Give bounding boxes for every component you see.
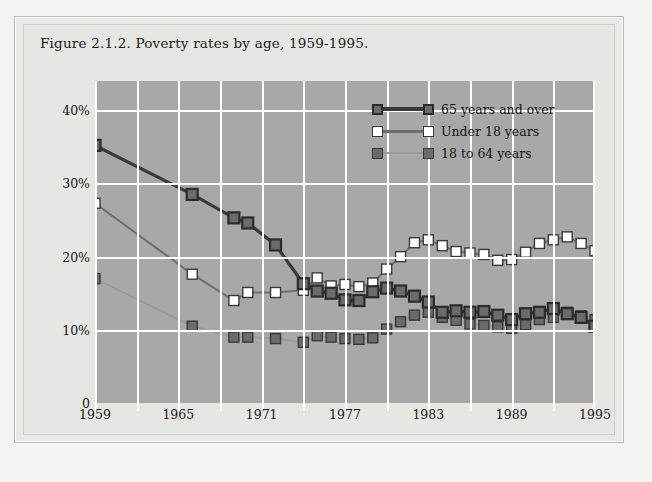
data-point-marker [409,291,420,302]
data-point-marker [354,282,364,292]
data-point-marker [243,287,253,297]
legend-item: Under 18 years [372,120,572,142]
figure-title: Figure 2.1.2. Poverty rates by age, 1959… [40,35,369,51]
data-point-marker [270,239,281,250]
gridline-horizontal [95,257,595,259]
data-point-marker [492,310,503,321]
data-point-marker [353,295,364,306]
gridline-vertical [178,81,180,403]
data-point-marker [229,296,239,306]
screenshot-page: Figure 2.1.2. Poverty rates by age, 1959… [0,0,652,482]
legend-key-18-to-64 [372,146,434,160]
data-point-marker [562,232,572,242]
figure-frame: Figure 2.1.2. Poverty rates by age, 1959… [14,16,624,443]
x-axis: 1959196519711977198319891995 [95,407,595,431]
x-axis-label: 1977 [329,407,361,422]
data-point-marker [478,306,489,317]
figure-panel: Figure 2.1.2. Poverty rates by age, 1959… [23,24,615,435]
legend-key-65-plus [372,102,434,116]
data-point-marker [312,331,322,341]
data-point-marker [354,334,364,344]
x-axis-label: 1971 [246,407,278,422]
data-point-marker [395,286,406,297]
data-point-marker [312,286,323,297]
y-axis-label: 40% [62,103,90,118]
data-point-marker [396,317,406,327]
gridline-horizontal [95,183,595,185]
data-point-marker [437,241,447,251]
gridline-vertical [345,81,347,403]
x-axis-label: 1983 [412,407,444,422]
data-point-marker [409,310,419,320]
data-point-marker [534,238,544,248]
chart-legend: 65 years and over Under 18 years [372,98,572,164]
y-axis-label: 30% [62,176,90,191]
gridline-vertical [262,81,264,403]
gridline-vertical [95,81,97,403]
data-point-marker [187,269,197,279]
data-point-marker [451,305,462,316]
gridline-horizontal [95,330,595,332]
legend-item: 65 years and over [372,98,572,120]
data-point-marker [576,238,586,248]
legend-label-under-18: Under 18 years [441,124,539,139]
data-point-marker [271,334,281,344]
data-point-marker [562,308,573,319]
data-point-marker [187,189,198,200]
data-point-marker [534,307,545,318]
x-axis-label: 1965 [162,407,194,422]
gridline-vertical [220,81,222,403]
gridline-vertical [303,81,305,403]
legend-key-under-18 [372,124,434,138]
data-point-marker [520,308,531,319]
x-axis-label: 1989 [496,407,528,422]
legend-item: 18 to 64 years [372,142,572,164]
data-point-marker [229,332,239,342]
data-point-marker [243,332,253,342]
x-axis-label: 1959 [79,407,111,422]
y-axis-label: 10% [62,322,90,337]
data-point-marker [326,288,337,299]
legend-label-18-to-64: 18 to 64 years [441,146,532,161]
legend-label-65-plus: 65 years and over [441,102,555,117]
data-point-marker [312,273,322,283]
data-point-marker [451,247,461,257]
gridline-vertical [593,81,595,403]
x-axis-label: 1995 [579,407,611,422]
gridline-vertical [137,81,139,403]
data-point-marker [409,238,419,248]
data-point-marker [271,287,281,297]
y-axis: 010%20%30%40% [38,81,90,403]
data-point-marker [368,333,378,343]
data-point-marker [521,320,531,330]
data-point-marker [326,332,336,342]
data-point-marker [576,312,587,323]
y-axis-label: 20% [62,249,90,264]
data-point-marker [437,307,448,318]
data-point-marker [228,212,239,223]
data-point-marker [367,286,378,297]
data-point-marker [242,217,253,228]
